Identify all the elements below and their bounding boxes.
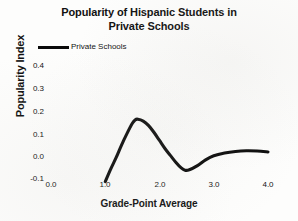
series-line-private-schools — [105, 119, 268, 182]
chart-plot-area — [0, 0, 298, 221]
chart-figure: Popularity of Hispanic Students in Priva… — [0, 0, 298, 221]
